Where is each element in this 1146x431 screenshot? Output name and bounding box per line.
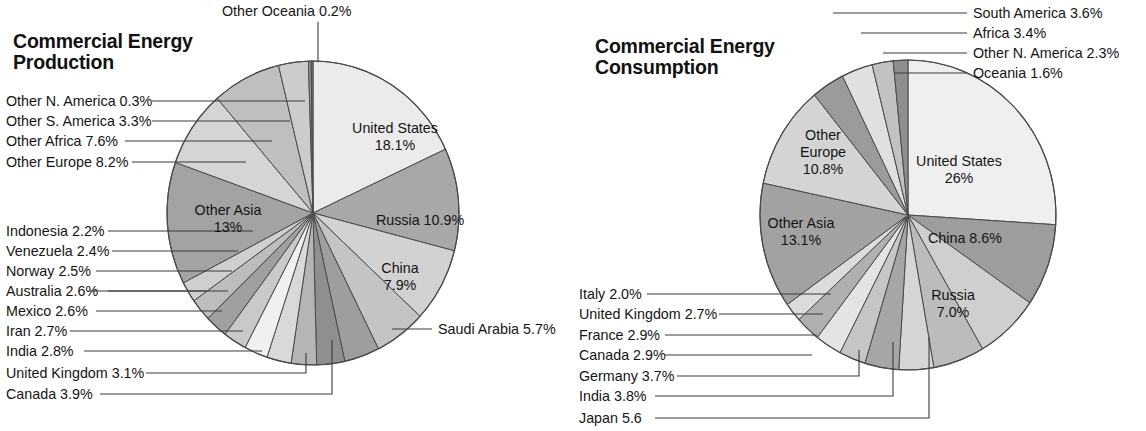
callout-label-japan-5-6: Japan 5.6 [579, 410, 642, 426]
callout-label-africa-3-4: Africa 3.4% [973, 25, 1046, 41]
callout-label-other-europe-8-2: Other Europe 8.2% [6, 154, 129, 170]
figure-root: Other Oceania 0.2%Other N. America 0.3%O… [0, 0, 1146, 431]
callout-label-other-n-america-0-3: Other N. America 0.3% [6, 93, 152, 109]
chart-panel-production: Other Oceania 0.2%Other N. America 0.3%O… [0, 0, 573, 431]
slice-label-china: China7.9% [381, 260, 418, 293]
callout-label-canada-2-9: Canada 2.9% [579, 347, 666, 363]
callout-label-south-america-3-6: South America 3.6% [973, 5, 1103, 21]
pie-slice-united-states[interactable] [908, 60, 1056, 225]
callout-label-iran-2-7: Iran 2.7% [6, 323, 67, 339]
callout-label-oceania-1-6: Oceania 1.6% [973, 65, 1063, 81]
callout-label-india-2-8: India 2.8% [6, 343, 74, 359]
callout-label-other-africa-7-6: Other Africa 7.6% [6, 133, 118, 149]
slice-label-russia: Russia7.0% [931, 287, 975, 320]
callout-label-canada-3-9: Canada 3.9% [6, 386, 93, 402]
chart-title-production: Commercial Energy Production [13, 31, 193, 73]
callout-label-united-kingdom-2-7: United Kingdom 2.7% [579, 306, 718, 322]
slice-label-russia: Russia 10.9% [376, 212, 464, 228]
chart-title-consumption: Commercial Energy Consumption [595, 36, 775, 78]
callout-label-india-3-8: India 3.8% [579, 388, 647, 404]
callout-label-germany-3-7: Germany 3.7% [579, 368, 675, 384]
callout-label-other-oceania-0-2: Other Oceania 0.2% [222, 3, 352, 19]
callout-label-other-s-america-3-3: Other S. America 3.3% [6, 113, 152, 129]
callout-label-norway-2-5: Norway 2.5% [6, 263, 91, 279]
callout-label-venezuela-2-4: Venezuela 2.4% [6, 243, 110, 259]
callout-label-indonesia-2-2: Indonesia 2.2% [6, 223, 105, 239]
callout-label-saudi-arabia-5-7: Saudi Arabia 5.7% [438, 321, 556, 337]
slice-label-other-europe: OtherEurope10.8% [800, 127, 846, 177]
leader-line-germany-3-7 [677, 350, 859, 376]
callout-label-mexico-2-6: Mexico 2.6% [6, 303, 88, 319]
callout-label-other-n-america-2-3: Other N. America 2.3% [973, 45, 1119, 61]
callout-label-france-2-9: France 2.9% [579, 327, 660, 343]
callout-label-united-kingdom-3-1: United Kingdom 3.1% [6, 365, 145, 381]
callout-label-australia-2-6: Australia 2.6% [6, 283, 98, 299]
slice-label-china: China 8.6% [928, 230, 1002, 246]
callout-label-italy-2-0: Italy 2.0% [579, 286, 642, 302]
chart-panel-consumption: South America 3.6%Africa 3.4%Other N. Am… [573, 0, 1146, 431]
